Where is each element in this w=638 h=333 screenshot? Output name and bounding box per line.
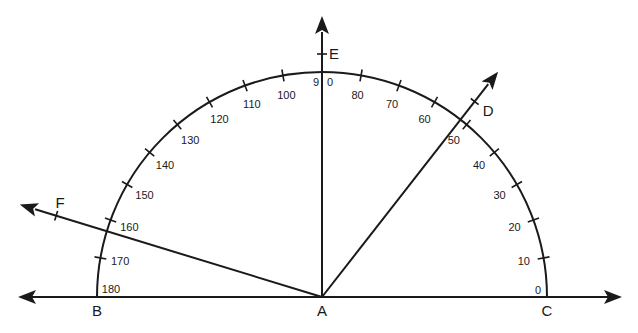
tick-label-100: 100	[277, 89, 295, 101]
point-label-C: C	[542, 302, 553, 319]
point-label-D: D	[483, 102, 494, 119]
ray-D-arrowhead	[481, 72, 498, 90]
tick-mark-30	[512, 182, 522, 188]
tick-label-140: 140	[156, 159, 174, 171]
ray-E-arrowhead	[315, 16, 329, 34]
point-label-E: E	[329, 45, 339, 62]
ray-AF	[35, 209, 322, 297]
rays-group	[20, 16, 498, 297]
tick-label-50: 50	[448, 134, 460, 146]
tick-label-130: 130	[181, 134, 199, 146]
vertex-label-A: A	[317, 302, 327, 319]
tick-mark-80	[360, 70, 362, 82]
tick-label-20: 20	[509, 221, 521, 233]
protractor-diagram: 0102030405060708090100110120130140150160…	[0, 0, 638, 333]
tick-label-40: 40	[473, 159, 485, 171]
tick-label-30: 30	[493, 189, 505, 201]
tick-mark-170	[95, 257, 107, 259]
point-label-B: B	[92, 302, 102, 319]
tick-label-180: 180	[102, 283, 120, 295]
tick-mark-10	[538, 257, 550, 259]
tick-label-90-zero: 0	[327, 76, 333, 88]
tick-label-170: 170	[111, 255, 129, 267]
tick-mark-150	[122, 182, 132, 188]
tick-label-150: 150	[135, 189, 153, 201]
tick-label-120: 120	[210, 113, 228, 125]
tick-label-160: 160	[120, 221, 138, 233]
tick-label-60: 60	[418, 113, 430, 125]
tick-label-10: 10	[518, 255, 530, 267]
tick-label-70: 70	[386, 98, 398, 110]
labels-group: 0102030405060708090100110120130140150160…	[56, 45, 553, 319]
point-label-F: F	[56, 194, 65, 211]
tick-mark-60	[432, 97, 438, 107]
tick-mark-120	[207, 97, 213, 107]
tick-label-90: 9	[313, 76, 319, 88]
tick-label-80: 80	[351, 89, 363, 101]
tick-label-0: 0	[535, 284, 541, 296]
tick-mark-100	[282, 70, 284, 82]
ray-AD	[322, 84, 488, 297]
tick-label-110: 110	[243, 98, 261, 110]
